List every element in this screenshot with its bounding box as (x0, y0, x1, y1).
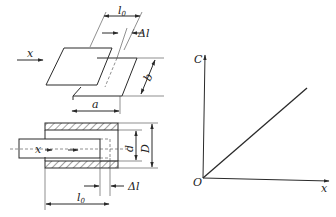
lower-plate (73, 58, 137, 96)
plate-delta-l-label: Δl (137, 27, 150, 40)
plate-x-label: x (27, 47, 34, 60)
cyl-d-label: d (123, 145, 136, 152)
plate-b-label: b (141, 71, 156, 83)
cyl-D-label: D (139, 144, 152, 154)
cyl-x-label: x (35, 143, 42, 156)
outer-tube-bottom-wall (45, 161, 118, 168)
cylindrical-capacitor: x d D Δl l0 (10, 123, 158, 210)
outer-tube-top-wall (45, 123, 118, 130)
cyl-delta-l-label: Δl (127, 180, 140, 193)
origin-label: O (193, 176, 202, 189)
y-axis (203, 55, 205, 178)
upper-plate (46, 48, 112, 85)
cyl-l0-label: l0 (77, 191, 86, 205)
capacitor-diagram: x l0 Δl b a (0, 0, 336, 217)
plate-capacitor: x l0 Δl b a (17, 4, 164, 114)
plate-a-label: a (92, 98, 99, 111)
c-vs-x-graph: C x O (193, 53, 329, 195)
y-axis-label: C (194, 53, 203, 66)
inner-rod (19, 139, 100, 158)
plate-l0-label: l0 (118, 4, 127, 18)
c-line (203, 88, 307, 178)
x-axis (203, 178, 329, 181)
x-axis-label: x (321, 182, 328, 195)
